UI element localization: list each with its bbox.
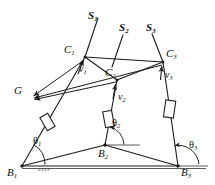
- angle-theta-3-label: θ3: [189, 140, 197, 151]
- platform-edge-c1-c3: [85, 57, 163, 62]
- base-point-1-sub: 1: [14, 172, 17, 179]
- coupler-point-1-sub: 1: [71, 49, 74, 56]
- coupler-point-2-sub: 2: [112, 72, 115, 79]
- base-edge-b1-b2: [22, 145, 105, 166]
- base-point-3-base: B: [181, 166, 188, 178]
- velocity-vector-2-sub: 2: [122, 96, 125, 103]
- angle-theta-2-label: θ2: [112, 118, 120, 129]
- base-edge-b2-b3: [105, 145, 178, 166]
- screw-axis-2-sub: 2: [125, 27, 128, 34]
- velocity-vector-1-sub: 1: [83, 68, 86, 75]
- base-point-3-label: B3: [181, 167, 191, 180]
- angle-theta-2-sub: 2: [117, 122, 120, 129]
- base-point-2-label: B2: [98, 148, 108, 161]
- angle-theta-1-sub: 1: [38, 140, 41, 147]
- joint-b1: [20, 164, 23, 167]
- ground-reference-lines: [22, 145, 208, 169]
- leg-3-upper-link: [152, 34, 163, 62]
- screw-axis-2-label: S2: [119, 22, 129, 35]
- platform-triangle: [85, 57, 163, 80]
- coupler-point-1-label: C1: [64, 44, 75, 57]
- base-point-3-sub: 3: [188, 172, 191, 179]
- coupler-point-3-label: C3: [166, 48, 177, 61]
- velocity-vector-3-label: v3: [165, 70, 173, 81]
- screw-axis-3-sub: 3: [152, 27, 155, 34]
- joint-c3: [162, 61, 165, 64]
- slider-box-1: [40, 113, 55, 130]
- joint-c1: [84, 56, 87, 59]
- point-g-label: G: [14, 85, 22, 96]
- base-point-1-base: B: [7, 166, 14, 178]
- leg-3-prismatic-slider: [163, 100, 175, 118]
- base-point-2-base: B: [98, 147, 105, 159]
- screw-axis-3-label: S3: [146, 22, 156, 35]
- screw-axis-1-label: S1: [88, 10, 98, 23]
- leg-1-lower-link: [22, 57, 85, 166]
- slider-box-3: [163, 100, 175, 118]
- base-point-1-label: B1: [7, 167, 17, 180]
- joint-b3: [176, 164, 179, 167]
- angle-arc-theta-2: [110, 127, 124, 145]
- base-point-2-sub: 2: [105, 153, 108, 160]
- g-arrow-from-c2: [35, 82, 117, 100]
- v3-arrow: [161, 66, 162, 80]
- angle-theta-1-label: θ1: [33, 136, 41, 147]
- leg-1-upper-link: [85, 18, 98, 57]
- velocity-vector-3-sub: 3: [169, 74, 172, 81]
- leg-2-upper-link: [112, 35, 123, 67]
- velocity-vector-1-label: v1: [79, 64, 87, 75]
- angle-arcs: [34, 127, 199, 165]
- coupler-point-3-sub: 3: [173, 53, 176, 60]
- angle-theta-3-sub: 3: [194, 144, 197, 151]
- coupler-point-2-label: C2: [105, 67, 116, 80]
- kinematic-diagram-figure: S1 S2 S3 C1 C2 C3 v1 v2 v3 G B1 B2 B3 θ1: [0, 0, 215, 185]
- velocity-vector-2-label: v2: [118, 92, 126, 103]
- screw-axis-1-sub: 1: [94, 15, 97, 22]
- leg-1-prismatic-slider: [40, 113, 55, 130]
- point-g-base: G: [14, 84, 22, 96]
